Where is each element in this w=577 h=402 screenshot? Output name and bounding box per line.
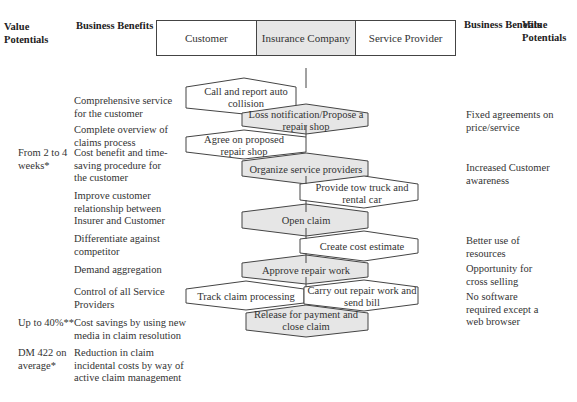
step-provide-tow-truck: Provide tow truck and rental car: [312, 182, 412, 206]
step-organize-service-providers: Organize service providers: [244, 160, 368, 180]
step-track-claim-processing: Track claim processing: [188, 288, 304, 306]
step-release-payment: Release for payment and close claim: [250, 309, 362, 333]
process-flow-diagram: [0, 0, 577, 402]
step-loss-notification: Loss notification/Propose a repair shop: [248, 111, 364, 131]
step-create-cost-estimate: Create cost estimate: [306, 238, 418, 256]
step-call-and-report: Call and report auto collision: [196, 85, 296, 111]
step-open-claim: Open claim: [250, 212, 362, 230]
step-agree-repair-shop: Agree on proposed repair shop: [196, 135, 292, 157]
step-carry-out-repair: Carry out repair work and send bill: [306, 285, 418, 309]
step-approve-repair-work: Approve repair work: [246, 262, 366, 280]
